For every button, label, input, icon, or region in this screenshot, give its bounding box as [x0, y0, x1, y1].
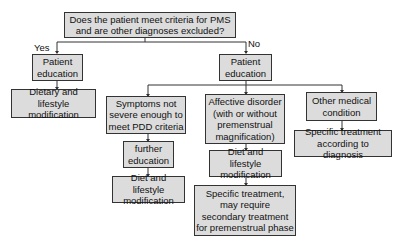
specific-treatment-diagnosis-box: Specific treatment according to diagnosi… — [294, 130, 392, 157]
no-label: No — [248, 38, 260, 49]
further-education-box: further education — [123, 141, 174, 168]
mild-diet-modification-box: Diet and lifestyle modification — [112, 176, 185, 203]
mild-symptoms-box: Symptoms not severe enough to meet PDD c… — [106, 96, 186, 134]
yes-label: Yes — [34, 42, 50, 53]
no-patient-education-box: Patient education — [219, 54, 272, 81]
affective-disorder-box: Affective disorder (with or without prem… — [205, 94, 285, 144]
other-medical-condition-box: Other medical condition — [306, 92, 377, 121]
root-question: Does the patient meet criteria for PMS a… — [69, 14, 230, 37]
specific-treatment-secondary-box: Specific treatment, may require secondar… — [194, 185, 296, 236]
yes-dietary-modification-box: Dietary and lifestyle modification — [11, 89, 96, 118]
affective-diet-modification-box: Diet and lifestyle modification — [209, 150, 282, 177]
root-question-box: Does the patient meet criteria for PMS a… — [64, 12, 236, 38]
yes-patient-education-box: Patient education — [32, 54, 83, 81]
